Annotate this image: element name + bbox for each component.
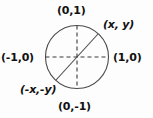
unit-circle-diagram: (0,1) (0,-1) (-1,0) (1,0) (x, y) (-x,-y): [0, 0, 153, 118]
label-point-0-neg1: (0,-1): [58, 101, 91, 112]
label-point-0-1: (0,1): [57, 5, 86, 16]
label-point-x-y: (x, y): [103, 19, 134, 30]
label-point-1-0: (1,0): [113, 52, 142, 63]
label-point-neg1-0: (-1,0): [1, 52, 34, 63]
label-point-negx-negy: (-x,-y): [20, 84, 56, 95]
